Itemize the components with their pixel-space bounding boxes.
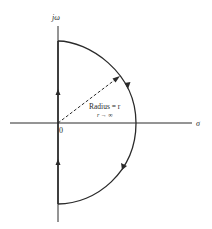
nyquist-diagram: jω σ 0 Radius = r r → ∞ [0, 0, 212, 229]
origin-label: 0 [59, 126, 63, 135]
radius-label: Radius = r [89, 102, 121, 111]
contour-direction-arrow-upper [56, 89, 61, 95]
limit-label: r → ∞ [97, 112, 113, 118]
jw-axis-label: jω [51, 13, 60, 22]
contour-direction-arrow-lower [56, 159, 61, 165]
arc-direction-arrow-upper [125, 82, 131, 89]
sigma-axis-label: σ [196, 119, 201, 128]
radius-arrowhead [113, 76, 121, 83]
